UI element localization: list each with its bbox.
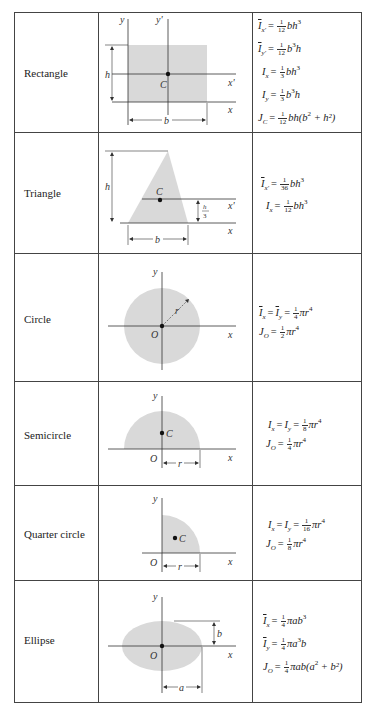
formula: JO=12πr4 bbox=[259, 325, 299, 340]
ellipse-diagram: y b O a x bbox=[100, 581, 253, 702]
shape-name: Quarter circle bbox=[24, 528, 85, 540]
svg-text:x: x bbox=[227, 104, 233, 115]
svg-text:r: r bbox=[178, 561, 182, 572]
shape-name: Ellipse bbox=[24, 634, 55, 646]
triangle-diagram: h C h 3 x' x b bbox=[100, 133, 253, 253]
svg-text:3: 3 bbox=[203, 212, 207, 220]
table-row-ellipse: Ellipse y b O a x bbox=[15, 581, 361, 702]
svg-text:x: x bbox=[227, 452, 233, 463]
svg-text:C: C bbox=[166, 428, 173, 439]
formula-list: Ix=Iy=116πr4 JO=18πr4 bbox=[254, 486, 362, 580]
svg-text:C: C bbox=[156, 186, 163, 197]
quarter-circle-diagram: y C O r x bbox=[100, 486, 253, 580]
shape-name: Semicircle bbox=[24, 429, 71, 441]
svg-text:h: h bbox=[105, 69, 110, 80]
svg-text:r: r bbox=[175, 305, 179, 316]
formula-list: Ix=14πab3 Iy=14πa3b JO=14πab(a2 + b²) bbox=[254, 581, 362, 702]
svg-text:y: y bbox=[152, 390, 158, 401]
circle-diagram: y r O x bbox=[100, 254, 253, 381]
svg-text:O: O bbox=[150, 650, 157, 661]
formula-list: Ix=Iy=18πr4 JO=14πr4 bbox=[254, 382, 362, 485]
svg-text:a: a bbox=[179, 682, 184, 693]
svg-text:y: y bbox=[152, 493, 158, 504]
formula: JC=112bh(b2 + h²) bbox=[258, 111, 335, 126]
svg-text:O: O bbox=[151, 329, 158, 340]
svg-text:h: h bbox=[105, 181, 110, 192]
svg-text:y': y' bbox=[155, 14, 163, 25]
formula-list: Ix=Iy=14πr4 JO=12πr4 bbox=[254, 254, 362, 381]
svg-text:x: x bbox=[227, 329, 233, 340]
svg-text:y: y bbox=[152, 591, 158, 602]
formula: JO=18πr4 bbox=[266, 537, 306, 552]
moments-of-inertia-table: Rectangle y y' h C bbox=[14, 12, 362, 703]
formula: Ix=Iy=18πr4 bbox=[268, 418, 321, 433]
svg-text:x: x bbox=[227, 225, 233, 236]
shape-name: Circle bbox=[24, 313, 51, 325]
svg-text:x': x' bbox=[227, 77, 235, 88]
table-row-rectangle: Rectangle y y' h C bbox=[15, 13, 361, 133]
formula: Ix=112bh3 bbox=[266, 199, 308, 214]
svg-text:x: x bbox=[227, 556, 233, 567]
svg-text:C: C bbox=[179, 533, 186, 544]
svg-text:O: O bbox=[150, 557, 157, 568]
svg-text:h: h bbox=[203, 203, 207, 211]
table-row-triangle: Triangle h C bbox=[15, 133, 361, 254]
formula-list: Ix'=112bh3 Iy'=112b3h Ix=13bh3 Iy=13b3h … bbox=[254, 13, 362, 132]
svg-text:O: O bbox=[150, 453, 157, 464]
svg-text:x: x bbox=[227, 649, 233, 660]
shape-name: Rectangle bbox=[24, 67, 68, 79]
svg-text:x': x' bbox=[227, 200, 235, 211]
svg-text:y: y bbox=[119, 14, 125, 25]
svg-text:r: r bbox=[178, 458, 182, 469]
formula: Ix=13bh3 bbox=[262, 65, 300, 80]
svg-text:b: b bbox=[155, 234, 160, 245]
table-row-semicircle: Semicircle y C O r x Ix=Iy=18πr4 JO=14 bbox=[15, 382, 361, 486]
formula: Ix=Iy=116πr4 bbox=[268, 518, 325, 533]
table-row-quarter-circle: Quarter circle y C O r x Ix=Iy=116πr4 bbox=[15, 486, 361, 581]
svg-text:b: b bbox=[217, 628, 222, 639]
rectangle-diagram: y y' h C x' x b bbox=[100, 13, 253, 132]
formula: Ix=14πab3 bbox=[263, 614, 306, 629]
formula: JO=14πab(a2 + b²) bbox=[263, 660, 342, 675]
svg-text:b: b bbox=[164, 115, 169, 126]
svg-text:C: C bbox=[160, 79, 167, 90]
formula: Ix'=136bh3 bbox=[261, 177, 304, 192]
shape-name: Triangle bbox=[24, 187, 61, 199]
formula: Ix=Iy=14πr4 bbox=[259, 306, 312, 321]
formula: Ix'=112bh3 bbox=[258, 19, 301, 34]
table-row-circle: Circle y r O x Ix=Iy=14πr4 JO=12πr4 bbox=[15, 254, 361, 382]
semicircle-diagram: y C O r x bbox=[100, 382, 253, 485]
formula-list: Ix'=136bh3 Ix=112bh3 bbox=[254, 133, 362, 253]
formula: Iy=14πa3b bbox=[263, 637, 306, 652]
svg-text:y: y bbox=[152, 266, 158, 277]
formula: Iy=13b3h bbox=[262, 88, 300, 103]
formula: JO=14πr4 bbox=[266, 437, 306, 452]
formula: Iy'=112b3h bbox=[258, 42, 301, 57]
